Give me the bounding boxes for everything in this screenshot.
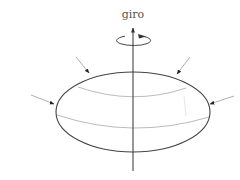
spheroid-rotation-diagram: giro	[0, 0, 240, 180]
compression-arrow-lower-right	[210, 96, 234, 104]
meridian-hint	[184, 96, 186, 116]
compression-arrow-upper-left	[76, 57, 89, 73]
rotation-arrowhead-icon	[138, 34, 146, 39]
upper-latitude-line	[78, 87, 186, 97]
compression-arrow-upper-right	[177, 57, 190, 74]
compression-arrow-lower-left	[31, 95, 54, 104]
giro-label: giro	[122, 8, 145, 21]
rotation-direction-ellipse	[117, 34, 151, 46]
